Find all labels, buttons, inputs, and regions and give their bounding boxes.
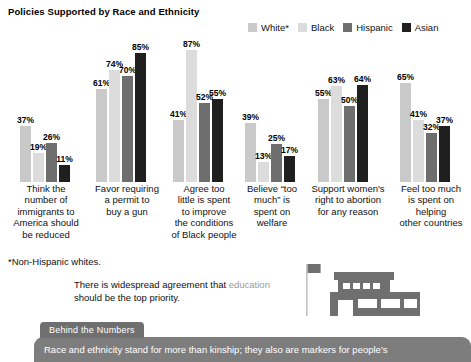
- bar-group-bars: 39%13%25%17%: [245, 40, 295, 182]
- bar-hispanic-6[interactable]: 32%: [426, 40, 437, 182]
- legend-item-white: White*: [248, 22, 289, 33]
- bar-rect[interactable]: [96, 89, 107, 182]
- category-label-line: Favor requiring: [88, 183, 166, 194]
- bar-asian-1[interactable]: 11%: [59, 40, 70, 182]
- bar-group-bars: 61%74%70%85%: [96, 40, 146, 182]
- bar-rect[interactable]: [109, 70, 120, 182]
- category-label-line: immigrants to: [7, 206, 85, 217]
- category-label-line: welfare: [240, 217, 304, 228]
- category-label-line: spent on: [240, 206, 304, 217]
- bar-value-label: 17%: [281, 145, 298, 155]
- category-label-line: the conditions: [164, 217, 244, 228]
- category-label-line: helping: [392, 206, 470, 217]
- category-label-4: Believe “toomuch” isspent onwelfare: [240, 183, 304, 229]
- category-label-line: Believe “too: [240, 183, 304, 194]
- bar-rect[interactable]: [59, 165, 70, 182]
- legend-swatch-black: [298, 23, 307, 32]
- bar-rect[interactable]: [400, 83, 411, 182]
- bar-asian-3[interactable]: 55%: [212, 40, 223, 182]
- category-label-line: is spent on: [392, 194, 470, 205]
- bar-rect[interactable]: [357, 85, 368, 182]
- bar-group-bars: 37%19%26%11%: [20, 40, 70, 182]
- bar-value-label: 39%: [242, 112, 259, 122]
- bar-rect[interactable]: [173, 120, 184, 182]
- bar-hispanic-2[interactable]: 70%: [122, 40, 133, 182]
- bar-group-bars: 41%87%52%55%: [173, 40, 223, 182]
- legend-swatch-asian: [402, 23, 411, 32]
- category-label-line: a permit to: [88, 194, 166, 205]
- bar-white-5[interactable]: 55%: [318, 40, 329, 182]
- bar-value-label: 25%: [268, 133, 285, 143]
- bar-rect[interactable]: [344, 106, 355, 182]
- category-label-line: other countries: [392, 217, 470, 228]
- bar-asian-4[interactable]: 17%: [284, 40, 295, 182]
- bar-rect[interactable]: [318, 99, 329, 182]
- bar-value-label: 37%: [436, 115, 453, 125]
- category-label-line: to improve: [164, 206, 244, 217]
- bar-asian-2[interactable]: 85%: [135, 40, 146, 182]
- bar-black-1[interactable]: 19%: [33, 40, 44, 182]
- bar-rect[interactable]: [33, 153, 44, 182]
- bar-hispanic-4[interactable]: 25%: [271, 40, 282, 182]
- category-label-line: Support women's: [304, 183, 392, 194]
- school-building-icon: [300, 262, 420, 316]
- category-label-line: buy a gun: [88, 206, 166, 217]
- pull-quote-before: There is widespread agreement that: [74, 279, 226, 290]
- bar-value-label: 63%: [328, 75, 345, 85]
- legend-item-black: Black: [298, 22, 334, 33]
- behind-the-numbers-tab: Behind the Numbers: [40, 322, 144, 338]
- bar-asian-5[interactable]: 64%: [357, 40, 368, 182]
- bar-rect[interactable]: [439, 126, 450, 182]
- category-label-6: Feel too muchis spent onhelpingother cou…: [392, 183, 470, 229]
- bar-value-label: 55%: [315, 88, 332, 98]
- category-label-line: America should: [7, 217, 85, 228]
- bar-rect[interactable]: [426, 133, 437, 182]
- bar-hispanic-3[interactable]: 52%: [199, 40, 210, 182]
- bar-black-3[interactable]: 87%: [186, 40, 197, 182]
- bar-black-2[interactable]: 74%: [109, 40, 120, 182]
- legend-swatch-white: [248, 23, 257, 32]
- bar-black-5[interactable]: 63%: [331, 40, 342, 182]
- bar-rect[interactable]: [199, 103, 210, 182]
- category-label-line: be reduced: [7, 229, 85, 240]
- bar-black-4[interactable]: 13%: [258, 40, 269, 182]
- bar-value-label: 87%: [183, 39, 200, 49]
- bar-rect[interactable]: [258, 162, 269, 182]
- bar-value-label: 70%: [119, 65, 136, 75]
- category-label-line: Feel too much: [392, 183, 470, 194]
- category-label-line: number of: [7, 194, 85, 205]
- legend-label-asian: Asian: [415, 22, 439, 33]
- bar-chart-plot-area: 37%19%26%11%61%74%70%85%41%87%52%55%39%1…: [0, 40, 471, 182]
- legend-label-white: White*: [261, 22, 289, 33]
- bar-value-label: 19%: [30, 142, 47, 152]
- legend-item-hispanic: Hispanic: [343, 22, 392, 33]
- bar-value-label: 41%: [170, 109, 187, 119]
- bar-value-label: 61%: [93, 78, 110, 88]
- bar-rect[interactable]: [20, 126, 31, 182]
- category-label-line: for any reason: [304, 206, 392, 217]
- bar-white-1[interactable]: 37%: [20, 40, 31, 182]
- bar-value-label: 50%: [341, 95, 358, 105]
- behind-the-numbers-body: Race and ethnicity stand for more than k…: [44, 344, 464, 355]
- bar-asian-6[interactable]: 37%: [439, 40, 450, 182]
- bar-rect[interactable]: [186, 50, 197, 182]
- bar-hispanic-5[interactable]: 50%: [344, 40, 355, 182]
- bar-rect[interactable]: [135, 53, 146, 182]
- legend-item-asian: Asian: [402, 22, 439, 33]
- category-label-5: Support women'sright to abortionfor any …: [304, 183, 392, 217]
- bar-black-6[interactable]: 41%: [413, 40, 424, 182]
- bar-white-3[interactable]: 41%: [173, 40, 184, 182]
- bar-rect[interactable]: [284, 156, 295, 182]
- legend-swatch-hispanic: [343, 23, 352, 32]
- category-label-line: right to abortion: [304, 194, 392, 205]
- bar-group-bars: 55%63%50%64%: [318, 40, 368, 182]
- pull-quote-after: should be the top priority.: [74, 292, 180, 303]
- chart-legend: White* Black Hispanic Asian: [248, 22, 438, 33]
- page-title: Policies Supported by Race and Ethnicity: [8, 6, 199, 17]
- bar-rect[interactable]: [212, 99, 223, 182]
- legend-label-black: Black: [311, 22, 334, 33]
- legend-label-hispanic: Hispanic: [356, 22, 392, 33]
- category-label-line: Think the: [7, 183, 85, 194]
- bar-rect[interactable]: [122, 76, 133, 182]
- category-label-line: little is spent: [164, 194, 244, 205]
